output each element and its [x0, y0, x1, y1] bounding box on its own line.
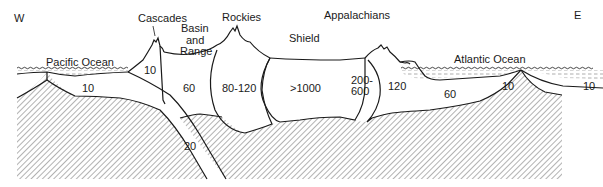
lithosphere-cross-section: W E Pacific Ocean Cascades Basin and Ran…: [0, 0, 603, 187]
basin-and-range-line1: Basin: [181, 22, 209, 34]
atlantic-margin-thickness: 60: [444, 88, 456, 100]
rockies-thickness: 80-120: [222, 82, 256, 94]
coastal-plain-thickness: 120: [388, 80, 406, 92]
shield-label: Shield: [289, 32, 320, 44]
cascades-thickness: 10: [144, 64, 156, 76]
rockies-label: Rockies: [222, 11, 262, 23]
east-label: E: [574, 9, 581, 21]
pacific-plate-thickness: 10: [82, 82, 94, 94]
subducting-slab-thickness: 20: [184, 140, 196, 152]
appalachians-label: Appalachians: [324, 9, 391, 21]
basin-range-thickness: 60: [183, 82, 195, 94]
shield-thickness: >1000: [290, 82, 321, 94]
cascades-pointer: [153, 26, 155, 36]
atlantic-ocean-label: Atlantic Ocean: [454, 53, 526, 65]
appalachians-thickness-bottom: 600: [351, 85, 369, 97]
atlantic-plate-west-thickness: 10: [502, 80, 514, 92]
west-label: W: [14, 12, 25, 24]
pacific-ocean-label: Pacific Ocean: [46, 56, 114, 68]
basin-and-range-line3: Range: [180, 45, 212, 57]
cascades-label: Cascades: [138, 12, 187, 24]
atlantic-plate-east-thickness: 10: [583, 80, 595, 92]
